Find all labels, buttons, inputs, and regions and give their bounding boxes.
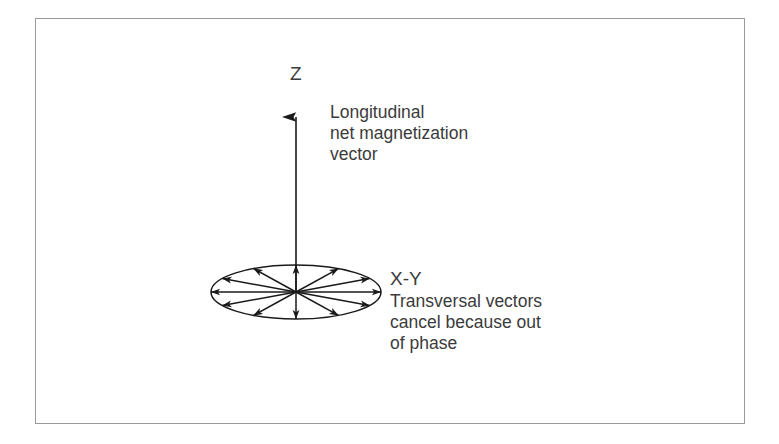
figure-root: Z Longitudinal net magnetization vector …: [0, 0, 779, 444]
xy-axis-label: X-Y: [390, 269, 422, 288]
longitudinal-annotation: Longitudinal net magnetization vector: [330, 102, 468, 165]
longitudinal-annotation-line-1: Longitudinal: [330, 102, 468, 123]
transversal-annotation-line-2: cancel because out: [390, 312, 542, 333]
magnetization-diagram: [0, 0, 779, 444]
transversal-annotation-line-1: Transversal vectors: [390, 291, 542, 312]
transversal-annotation: Transversal vectors cancel because out o…: [390, 291, 542, 354]
transversal-annotation-line-3: of phase: [390, 333, 542, 354]
xy-plane-group: [211, 265, 381, 319]
z-axis-label: Z: [290, 64, 302, 83]
longitudinal-annotation-line-3: vector: [330, 144, 468, 165]
longitudinal-annotation-line-2: net magnetization: [330, 123, 468, 144]
